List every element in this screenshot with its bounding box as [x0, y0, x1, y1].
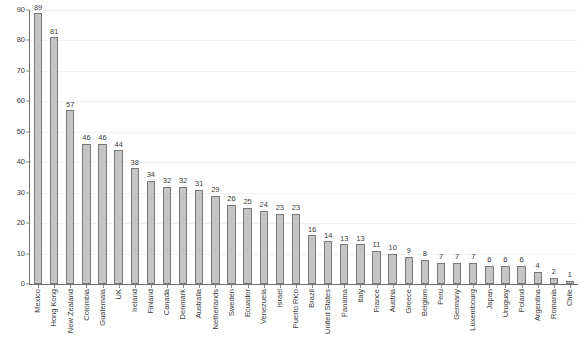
bar-slot[interactable]: 10 [388, 10, 396, 284]
bar[interactable] [147, 181, 155, 285]
bar-slot[interactable]: 25 [243, 10, 251, 284]
bar[interactable] [372, 251, 380, 284]
x-axis-label: Panama [338, 289, 350, 347]
bar[interactable] [469, 263, 477, 284]
bar[interactable] [195, 190, 203, 284]
x-axis-label: Japan [483, 289, 495, 347]
bar-value-label: 32 [163, 177, 171, 185]
bar[interactable] [534, 272, 542, 284]
bar-slot[interactable]: 13 [356, 10, 364, 284]
x-axis-label-text: Poland [518, 289, 526, 312]
bar[interactable] [405, 257, 413, 284]
x-axis-label-text: Peru [437, 289, 445, 305]
bar[interactable] [260, 211, 268, 284]
bar-slot[interactable]: 38 [131, 10, 139, 284]
x-axis-label-text: Romania [550, 289, 558, 319]
bar-slot[interactable]: 57 [66, 10, 74, 284]
x-axis-label-text: Puerto Rico [292, 289, 300, 328]
bar-value-label: 6 [487, 256, 491, 264]
bar-slot[interactable]: 6 [517, 10, 525, 284]
bar-slot[interactable]: 7 [469, 10, 477, 284]
x-axis-label: Hong Kong [48, 289, 60, 347]
bar-slot[interactable]: 31 [195, 10, 203, 284]
bar-value-label: 32 [179, 177, 187, 185]
bar[interactable] [66, 110, 74, 284]
bar-slot[interactable]: 4 [534, 10, 542, 284]
bar-slot[interactable]: 7 [453, 10, 461, 284]
bar[interactable] [566, 281, 574, 284]
bar-slot[interactable]: 23 [292, 10, 300, 284]
x-axis-label: Austria [387, 289, 399, 347]
x-axis-tick-mark [280, 285, 281, 288]
x-axis-label: Argentina [532, 289, 544, 347]
x-axis-label: Brazil [306, 289, 318, 347]
bar-slot[interactable]: 9 [405, 10, 413, 284]
bar[interactable] [131, 168, 139, 284]
bar-slot[interactable]: 16 [308, 10, 316, 284]
bar[interactable] [388, 254, 396, 284]
x-axis-label-text: Italy [357, 289, 365, 303]
bar[interactable] [211, 196, 219, 284]
bar[interactable] [243, 208, 251, 284]
bar[interactable] [163, 187, 171, 284]
bar[interactable] [114, 150, 122, 284]
bar[interactable] [98, 144, 106, 284]
bar-slot[interactable]: 23 [276, 10, 284, 284]
x-axis-label-text: Hong Kong [50, 289, 58, 327]
bar-slot[interactable]: 89 [34, 10, 42, 284]
x-axis-tick-mark [183, 285, 184, 288]
bar-slot[interactable]: 26 [227, 10, 235, 284]
bar[interactable] [485, 266, 493, 284]
bar[interactable] [308, 235, 316, 284]
bar[interactable] [324, 241, 332, 284]
bar[interactable] [421, 260, 429, 284]
bar[interactable] [501, 266, 509, 284]
bar[interactable] [437, 263, 445, 284]
bar-slot[interactable]: 34 [147, 10, 155, 284]
bar-slot[interactable]: 6 [485, 10, 493, 284]
bar-slot[interactable]: 32 [163, 10, 171, 284]
bar-slot[interactable]: 29 [211, 10, 219, 284]
bar-slot[interactable]: 24 [260, 10, 268, 284]
x-axis-label: Guatemala [97, 289, 109, 347]
x-axis-label: Netherlands [209, 289, 221, 347]
bar-slot[interactable]: 8 [421, 10, 429, 284]
bar[interactable] [550, 278, 558, 284]
bar[interactable] [34, 13, 42, 284]
x-axis-label: France [371, 289, 383, 347]
bar-slot[interactable]: 7 [437, 10, 445, 284]
bar[interactable] [50, 37, 58, 284]
bar-slot[interactable]: 32 [179, 10, 187, 284]
bar-slot[interactable]: 1 [566, 10, 574, 284]
bar-value-label: 46 [98, 134, 106, 142]
bar[interactable] [227, 205, 235, 284]
bar-value-label: 57 [66, 101, 74, 109]
x-axis-label: Germany [451, 289, 463, 347]
bar[interactable] [453, 263, 461, 284]
bar-slot[interactable]: 2 [550, 10, 558, 284]
bar-value-label: 34 [147, 171, 155, 179]
bar[interactable] [340, 244, 348, 284]
x-axis-label: Ireland [129, 289, 141, 347]
bar-slot[interactable]: 46 [82, 10, 90, 284]
bar[interactable] [82, 144, 90, 284]
bar-slot[interactable]: 11 [372, 10, 380, 284]
bar[interactable] [356, 244, 364, 284]
bar[interactable] [517, 266, 525, 284]
bar-value-label: 23 [276, 204, 284, 212]
x-axis-tick-mark [425, 285, 426, 288]
bar-slot[interactable]: 6 [501, 10, 509, 284]
x-axis-tick-mark [328, 285, 329, 288]
bar-value-label: 38 [131, 159, 139, 167]
x-axis-tick-mark [522, 285, 523, 288]
bar[interactable] [179, 187, 187, 284]
bar-slot[interactable]: 14 [324, 10, 332, 284]
bar-slot[interactable]: 81 [50, 10, 58, 284]
bar-value-label: 14 [324, 232, 332, 240]
bar[interactable] [292, 214, 300, 284]
bar-slot[interactable]: 44 [114, 10, 122, 284]
bar-slot[interactable]: 13 [340, 10, 348, 284]
bar-slot[interactable]: 46 [98, 10, 106, 284]
bar[interactable] [276, 214, 284, 284]
bar-value-label: 25 [243, 198, 251, 206]
